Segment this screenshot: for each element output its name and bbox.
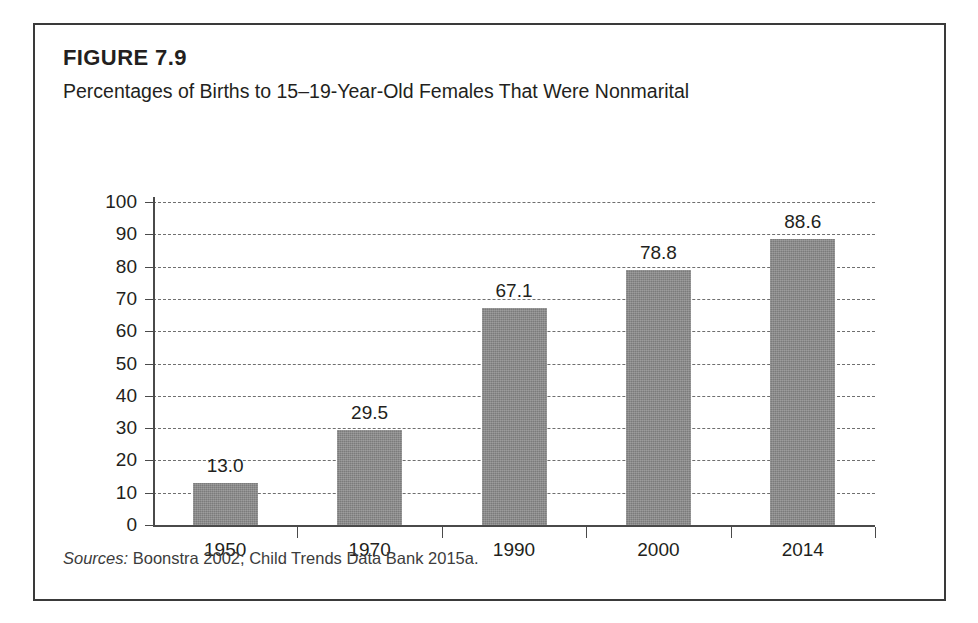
x-axis-tick (875, 527, 876, 538)
y-axis-tick-label: 70 (63, 288, 137, 310)
x-axis-line (153, 525, 875, 527)
bar-value-label: 88.6 (748, 211, 858, 233)
sources-note: Sources: Boonstra 2002; Child Trends Dat… (63, 549, 479, 568)
x-axis-tick-label: 2000 (593, 539, 723, 561)
figure-number: FIGURE 7.9 (63, 45, 187, 71)
x-axis-tick (586, 527, 587, 538)
x-axis-tick (731, 527, 732, 538)
sources-label: Sources: (63, 549, 128, 567)
y-axis-tick-label: 10 (63, 482, 137, 504)
figure-title: Percentages of Births to 15–19-Year-Old … (63, 80, 689, 103)
gridline (153, 234, 875, 235)
gridline (153, 202, 875, 203)
y-axis-tick-label: 60 (63, 320, 137, 342)
x-axis-tick-label: 2014 (738, 539, 868, 561)
y-axis-tick-label: 40 (63, 385, 137, 407)
y-axis-tick-label: 80 (63, 256, 137, 278)
bar (337, 430, 402, 525)
x-axis-tick (297, 527, 298, 538)
bar-value-label: 29.5 (315, 402, 425, 424)
bar (770, 239, 835, 525)
x-axis-tick (442, 527, 443, 538)
y-axis-tick-label: 0 (63, 514, 137, 536)
y-axis-tick-label: 30 (63, 417, 137, 439)
bar (482, 308, 547, 525)
sources-text: Boonstra 2002; Child Trends Data Bank 20… (128, 549, 478, 567)
y-axis-tick-label: 90 (63, 223, 137, 245)
y-axis-tick-label: 100 (63, 191, 137, 213)
bar-value-label: 13.0 (170, 455, 280, 477)
figure-panel: FIGURE 7.9 Percentages of Births to 15–1… (33, 23, 946, 601)
bar-value-label: 78.8 (603, 242, 713, 264)
y-axis-tick-label: 50 (63, 353, 137, 375)
gridline (153, 267, 875, 268)
bar (193, 483, 258, 525)
chart-plot-area: 0102030405060708090100 13.029.567.178.88… (63, 135, 919, 545)
bar (626, 270, 691, 525)
y-axis-tick-label: 20 (63, 449, 137, 471)
bar-value-label: 67.1 (459, 280, 569, 302)
y-axis-line (153, 197, 155, 527)
